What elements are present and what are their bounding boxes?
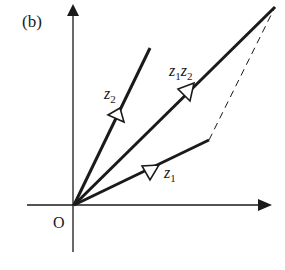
complex-multiplication-diagram: (b) O z2 z1z2 z1 [0, 0, 285, 270]
vector-z1 [74, 140, 209, 205]
vector-z2 [74, 48, 150, 205]
panel-label: (b) [22, 12, 42, 31]
origin-label: O [53, 214, 65, 231]
parallelogram-dashed-line [209, 7, 275, 140]
y-axis-arrow-icon [67, 4, 79, 16]
z1z2-label: z1z2 [168, 62, 192, 82]
z2-label: z2 [103, 85, 116, 105]
x-axis-arrow-icon [258, 199, 272, 211]
z1-label: z1 [163, 164, 176, 184]
